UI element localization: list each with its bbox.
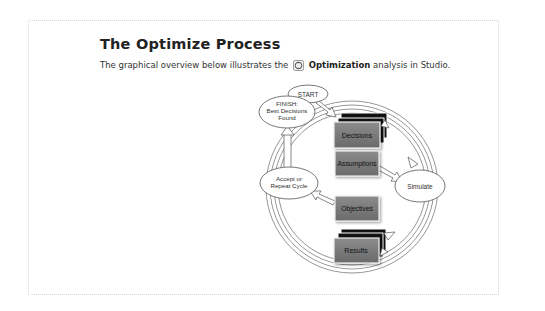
accept-label-1: Accept or <box>276 175 302 182</box>
arrow-objectives-to-accept <box>310 191 335 205</box>
finish-label-2: Best Decisions <box>267 107 308 114</box>
decisions-label: Decisions <box>342 132 373 139</box>
start-label: START <box>298 91 319 98</box>
decisions-box: Decisions <box>334 113 387 148</box>
results-label: Results <box>344 247 368 254</box>
optimize-process-diagram: Decisions Assumptions Objectives Results… <box>0 0 545 311</box>
simulate-label: Simulate <box>407 183 433 190</box>
finish-node: FINISH: Best Decisions Found <box>259 96 315 128</box>
objectives-label: Objectives <box>341 205 373 213</box>
finish-label-3: Found <box>278 114 296 121</box>
finish-label-1: FINISH: <box>276 100 298 107</box>
accept-label-2: Repeat Cycle <box>270 182 308 189</box>
assumptions-label: Assumptions <box>338 160 378 168</box>
results-box: Results <box>334 229 386 263</box>
accept-repeat-node: Accept or Repeat Cycle <box>260 167 318 199</box>
objectives-box: Objectives <box>335 196 379 221</box>
simulate-node: Simulate <box>395 170 445 202</box>
assumptions-box: Assumptions <box>335 151 379 176</box>
